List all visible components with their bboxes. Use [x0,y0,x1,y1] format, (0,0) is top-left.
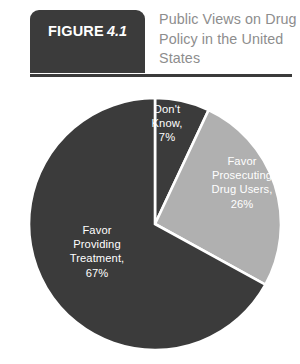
pie-slice-label-dont-know: Don't Know, 7% [140,102,194,145]
pie-chart: Don't Know, 7% Favor Prosecuting Drug Us… [0,78,300,364]
figure-number-badge: FIGURE4.1 [30,10,145,73]
pie-slice-label-favor-prosecuting: Favor Prosecuting Drug Users, 26% [196,154,288,211]
figure-header: FIGURE4.1 Public Views on Drug Policy in… [0,0,300,78]
figure-badge-text: FIGURE4.1 [30,23,145,39]
figure-title: Public Views on Drug Policy in the Unite… [159,10,299,69]
header-divider [30,74,292,77]
pie-slice-label-favor-treatment: Favor Providing Treatment, 67% [46,223,148,280]
figure-label: FIGURE [48,23,104,39]
figure-number: 4.1 [107,23,127,39]
